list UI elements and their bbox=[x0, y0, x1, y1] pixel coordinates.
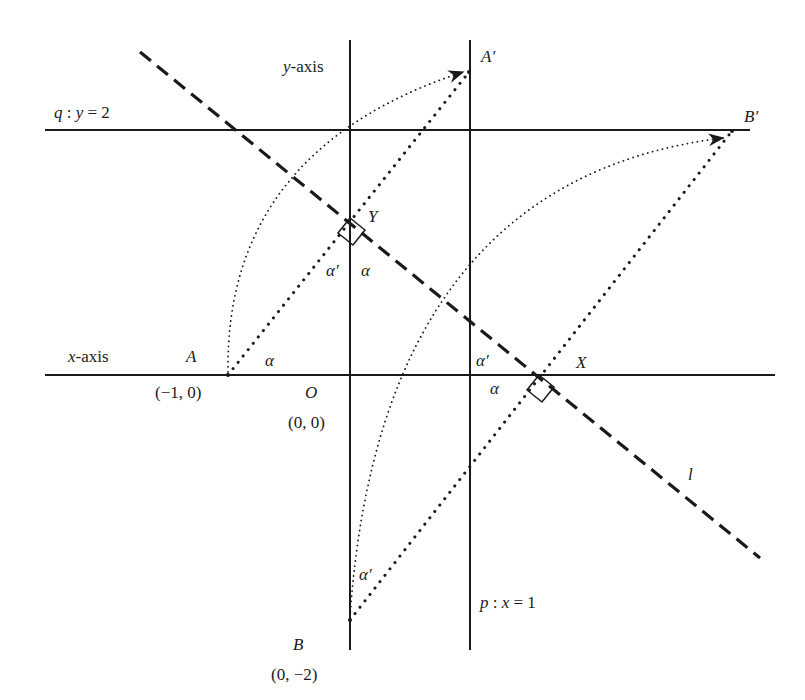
point-b-prime bbox=[730, 129, 734, 133]
point-a-prime-label: A′ bbox=[480, 47, 495, 66]
right-angle-marker-y bbox=[338, 218, 365, 245]
angle-alpha-prime-at-b: α′ bbox=[359, 565, 372, 584]
angle-alpha-prime-at-p: α′ bbox=[476, 351, 489, 370]
point-y-label: Y bbox=[368, 207, 379, 226]
line-p-label: p : x = 1 bbox=[479, 593, 536, 612]
point-b-coords: (0, −2) bbox=[271, 665, 317, 684]
point-a-prime bbox=[467, 70, 471, 74]
point-b-prime-label: B′ bbox=[744, 107, 758, 126]
point-b bbox=[348, 618, 352, 622]
x-axis-label: x-axis bbox=[67, 347, 109, 366]
line-q-label: q : y = 2 bbox=[54, 103, 110, 122]
segment-a-a-prime bbox=[228, 72, 469, 375]
point-x-label: X bbox=[575, 353, 587, 372]
point-a bbox=[226, 373, 230, 377]
angle-alpha-prime-at-y: α′ bbox=[326, 261, 339, 280]
line-l-label: l bbox=[688, 465, 693, 484]
arc-a-to-a-prime bbox=[228, 72, 463, 372]
y-axis-label: y-axis bbox=[281, 57, 324, 76]
point-origin-coords: (0, 0) bbox=[288, 413, 325, 432]
angle-alpha-at-a: α bbox=[265, 351, 275, 370]
point-a-label: A bbox=[185, 347, 197, 366]
point-origin-label: O bbox=[305, 383, 317, 402]
reflection-geometry-diagram: y-axis x-axis q : y = 2 p : x = 1 l A (−… bbox=[0, 0, 805, 700]
point-b-label: B bbox=[293, 635, 304, 654]
angle-alpha-at-y: α bbox=[361, 261, 371, 280]
angle-alpha-at-p: α bbox=[490, 379, 500, 398]
point-a-coords: (−1, 0) bbox=[155, 383, 201, 402]
